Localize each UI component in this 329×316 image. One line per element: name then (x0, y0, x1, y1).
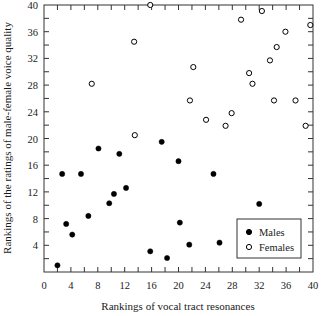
data-point (247, 70, 252, 75)
y-tick-label: 28 (28, 80, 39, 91)
data-point (187, 242, 192, 247)
x-tick-label: 36 (281, 280, 292, 291)
data-point (257, 201, 262, 206)
open-circle-icon (246, 244, 251, 249)
y-tick-label: 20 (28, 134, 39, 145)
x-tick-label: 40 (308, 280, 319, 291)
data-point (86, 213, 91, 218)
x-tick-label: 0 (41, 280, 46, 291)
data-point (64, 221, 69, 226)
y-tick-label: 24 (28, 107, 39, 118)
x-tick-label: 12 (119, 280, 130, 291)
data-point (187, 98, 192, 103)
x-tick-label: 20 (173, 280, 184, 291)
filled-circle-icon (246, 229, 251, 234)
data-point (132, 39, 137, 44)
y-tick-label: 36 (28, 27, 39, 38)
scatter-plot-figure: 0481216202428323640 481216202428323640 M… (0, 0, 329, 316)
y-tick-label: 12 (28, 187, 39, 198)
data-point (223, 123, 228, 128)
data-point (123, 185, 128, 190)
plot-canvas: 0481216202428323640 481216202428323640 M… (0, 0, 329, 316)
data-point (132, 133, 137, 138)
data-point (176, 159, 181, 164)
x-tick-label: 8 (95, 280, 100, 291)
x-axis-label: Rankings of vocal tract resonances (101, 300, 254, 312)
data-point (308, 22, 313, 27)
data-point (60, 171, 65, 176)
data-point (107, 201, 112, 206)
data-point (283, 29, 288, 34)
x-tick-label: 32 (254, 280, 265, 291)
x-tick-label: 24 (200, 280, 211, 291)
data-point (96, 146, 101, 151)
x-tick-label: 4 (68, 280, 74, 291)
data-point (271, 98, 276, 103)
data-point (191, 64, 196, 69)
data-point (55, 263, 60, 268)
y-tick-label: 8 (33, 214, 38, 225)
data-point (259, 8, 264, 13)
x-tick-label: 28 (227, 280, 238, 291)
legend-label: Males (259, 227, 285, 238)
y-tick-label: 32 (28, 53, 39, 64)
y-axis-label: Rankings of the ratings of male-female v… (1, 22, 13, 254)
data-point (293, 98, 298, 103)
data-point (159, 139, 164, 144)
data-point (111, 191, 116, 196)
data-point (164, 255, 169, 260)
data-point (148, 249, 153, 254)
y-tick-label: 40 (28, 0, 39, 11)
data-point (274, 44, 279, 49)
data-point (148, 2, 153, 7)
legend: MalesFemales (237, 219, 301, 258)
data-point (78, 171, 83, 176)
data-point (89, 81, 94, 86)
data-point (303, 123, 308, 128)
data-point (250, 81, 255, 86)
data-point (229, 111, 234, 116)
x-tick-label: 16 (146, 280, 157, 291)
data-point (177, 220, 182, 225)
data-point (217, 240, 222, 245)
data-point (117, 151, 122, 156)
data-point (70, 232, 75, 237)
data-point (203, 117, 208, 122)
y-tick-label: 16 (28, 160, 39, 171)
data-point (267, 58, 272, 63)
data-point (211, 171, 216, 176)
data-point (238, 17, 243, 22)
legend-label: Females (259, 242, 294, 253)
y-tick-label: 4 (33, 240, 39, 251)
